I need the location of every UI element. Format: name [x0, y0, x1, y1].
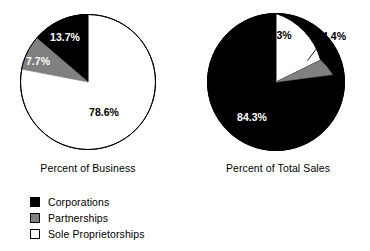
legend-item-corporations: Corporations: [30, 194, 250, 210]
legend-label-partnerships: Partnerships: [48, 212, 108, 224]
legend-swatch-sole-proprietorships: [30, 229, 40, 239]
chart-caption-percent-of-total-sales: Percent of Total Sales: [208, 162, 348, 174]
chart-caption-percent-of-business: Percent of Business: [20, 162, 156, 174]
slice-label-sole-proprietorships-left: 78.6%: [89, 106, 119, 118]
legend-label-corporations: Corporations: [48, 196, 109, 208]
pie-chart-percent-of-total-sales: 11.3% 4.4% 84.3%: [180, 8, 370, 160]
slice-label-corporations-left: 13.7%: [50, 31, 80, 43]
pie-chart-figure: 13.7% 7.7% 78.6% Percent of Business 11.…: [0, 0, 370, 251]
slice-label-partnerships-right: 4.4%: [322, 30, 347, 42]
legend-swatch-partnerships: [30, 213, 40, 223]
legend-swatch-corporations: [30, 197, 40, 207]
legend-item-partnerships: Partnerships: [30, 210, 250, 226]
slice-label-corporations-right: 84.3%: [237, 111, 267, 123]
pie-chart-percent-of-business: 13.7% 7.7% 78.6%: [0, 8, 180, 160]
legend-label-sole-proprietorships: Sole Proprietorships: [48, 228, 145, 240]
legend-item-sole-proprietorships: Sole Proprietorships: [30, 226, 250, 242]
slice-label-sole-proprietorships-right: 11.3%: [262, 29, 292, 41]
slice-label-partnerships-left: 7.7%: [26, 55, 51, 67]
legend: Corporations Partnerships Sole Proprieto…: [30, 194, 250, 242]
